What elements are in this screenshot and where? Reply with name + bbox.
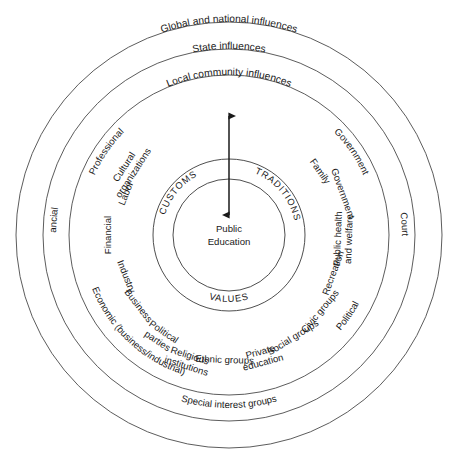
ring-label-state-text: State influences bbox=[191, 40, 266, 54]
sector-label-line1: Business bbox=[122, 287, 155, 325]
sector-label-civic-groups: Civic groups bbox=[299, 287, 341, 335]
ring-label-local-text: Local community influences bbox=[165, 66, 294, 89]
ring-global-circle bbox=[16, 22, 442, 448]
ring-label-state: State influences bbox=[191, 40, 266, 54]
concentric-influences-diagram: Global and national influences State inf… bbox=[0, 0, 459, 475]
ring-state-circle bbox=[43, 49, 415, 421]
sector-label-line1: Civic groups bbox=[299, 287, 341, 335]
sector-label-financial: Financial bbox=[102, 216, 113, 254]
core-term-values: VALUES bbox=[208, 291, 250, 304]
ring-label-global-text: Global and national influences bbox=[159, 13, 299, 35]
center-label-line2: Education bbox=[208, 236, 251, 247]
sector-label-business: Business bbox=[122, 287, 155, 325]
sector-label-public-health: Public healthand welfare bbox=[331, 211, 355, 267]
core-term-traditions: TRADITIONS bbox=[254, 166, 303, 222]
ring-label-local: Local community influences bbox=[165, 66, 294, 89]
state-ring-label-financial: Financial bbox=[0, 0, 60, 233]
ring-label-global: Global and national influences bbox=[159, 13, 299, 35]
center-label-line1: Public bbox=[216, 223, 242, 234]
sector-label-line1: Financial bbox=[102, 216, 113, 254]
local-ring-label-political: Political bbox=[334, 299, 361, 332]
sector-label-line2: and welfare bbox=[342, 214, 355, 264]
